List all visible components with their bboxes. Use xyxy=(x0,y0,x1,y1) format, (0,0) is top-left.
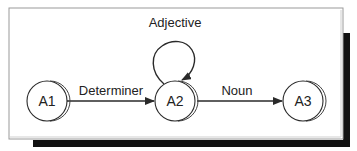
node-label-a3: A3 xyxy=(294,93,311,109)
state-diagram: Determiner Noun Adjective A1 A2 A3 xyxy=(0,0,357,151)
edge-label-adjective: Adjective xyxy=(149,15,202,30)
edge-label-noun: Noun xyxy=(221,83,252,98)
node-label-a2: A2 xyxy=(166,93,183,109)
edge-label-determiner: Determiner xyxy=(79,83,144,98)
node-label-a1: A1 xyxy=(38,93,55,109)
